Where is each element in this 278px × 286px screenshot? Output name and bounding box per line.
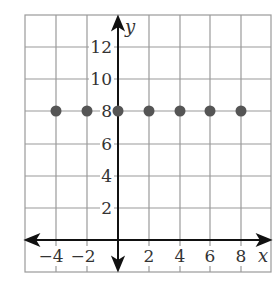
y-tick-6: 6 <box>101 134 112 154</box>
point-6-8 <box>205 106 216 117</box>
point-neg2-8 <box>82 106 93 117</box>
coordinate-plane: 12 10 8 6 4 2 −4 −2 2 4 6 8 y x <box>0 0 278 286</box>
y-tick-12: 12 <box>90 37 112 57</box>
x-tick-8: 8 <box>236 246 247 266</box>
x-tick-4: 4 <box>175 246 186 266</box>
x-axis-label: x <box>258 245 268 266</box>
point-8-8 <box>236 106 247 117</box>
y-axis-label: y <box>124 16 136 37</box>
y-tick-8: 8 <box>101 101 112 121</box>
point-neg4-8 <box>51 106 62 117</box>
x-tick-6: 6 <box>205 246 216 266</box>
label-masks <box>38 37 268 266</box>
grid <box>25 15 271 272</box>
y-tick-10: 10 <box>90 69 112 89</box>
point-0-8 <box>113 106 124 117</box>
x-tick-neg4: −4 <box>38 246 63 266</box>
y-tick-2: 2 <box>101 198 112 218</box>
point-2-8 <box>144 106 155 117</box>
x-tick-2: 2 <box>144 246 155 266</box>
x-tick-neg2: −2 <box>70 246 95 266</box>
point-4-8 <box>175 106 186 117</box>
y-tick-4: 4 <box>101 166 112 186</box>
